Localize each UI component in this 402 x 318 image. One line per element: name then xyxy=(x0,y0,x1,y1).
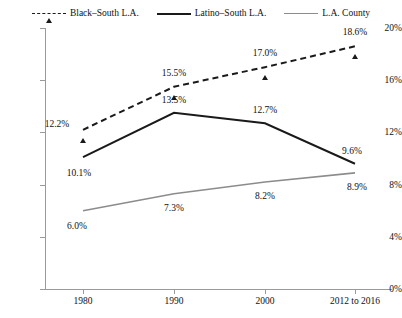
chart-legend: Black–South L.A. Latino–South L.A. L.A. … xyxy=(0,4,402,22)
x-tick-label: 2000 xyxy=(256,296,275,306)
x-tick-label: 1990 xyxy=(165,296,184,306)
chart-container: Black–South L.A. Latino–South L.A. L.A. … xyxy=(0,0,402,318)
legend-swatch-dashed-triangle xyxy=(32,8,66,18)
legend-label-black-south-la: Black–South L.A. xyxy=(70,8,139,18)
y-tick-label: 0% xyxy=(366,284,402,294)
data-point-value-label: 12.7% xyxy=(253,105,278,115)
x-tick-mark xyxy=(83,289,84,294)
legend-label-latino-south-la: Latino–South L.A. xyxy=(195,8,267,18)
legend-item-black-south-la[interactable]: Black–South L.A. xyxy=(32,8,139,18)
x-axis-line xyxy=(45,289,392,290)
data-point-value-label: 8.2% xyxy=(255,191,275,201)
x-tick-mark xyxy=(355,289,356,294)
legend-swatch-solid-circle xyxy=(157,8,191,18)
legend-item-latino-south-la[interactable]: Latino–South L.A. xyxy=(157,8,267,18)
series-lines xyxy=(0,0,402,318)
data-point-value-label: 7.3% xyxy=(164,203,184,213)
triangle-marker-icon xyxy=(262,58,268,76)
y-tick-mark xyxy=(40,80,45,81)
y-tick-label: 12% xyxy=(366,127,402,137)
series-line xyxy=(83,173,355,211)
y-axis-line xyxy=(45,28,46,289)
data-point-value-label: 8.9% xyxy=(347,182,367,192)
series-line xyxy=(83,46,355,130)
triangle-marker-icon xyxy=(46,8,52,18)
triangle-marker-icon xyxy=(80,121,86,139)
data-point-value-label: 6.0% xyxy=(67,221,87,231)
data-point-value-label: 9.6% xyxy=(342,146,362,156)
y-tick-label: 20% xyxy=(366,23,402,33)
y-tick-label: 4% xyxy=(366,232,402,242)
legend-label-la-county: L.A. County xyxy=(322,8,370,18)
y-tick-mark xyxy=(40,185,45,186)
x-tick-label: 2012 to 2016 xyxy=(330,296,380,306)
data-point-value-label: 13.5% xyxy=(162,95,187,105)
y-tick-mark xyxy=(40,237,45,238)
triangle-marker-icon xyxy=(352,37,358,55)
data-point-value-label: 12.2% xyxy=(45,119,70,129)
data-point-value-label: 17.0% xyxy=(253,48,278,58)
x-tick-mark xyxy=(265,289,266,294)
triangle-marker-icon xyxy=(171,78,177,96)
x-tick-mark xyxy=(174,289,175,294)
legend-item-la-county[interactable]: L.A. County xyxy=(284,8,370,18)
y-tick-mark xyxy=(40,28,45,29)
y-tick-mark xyxy=(40,289,45,290)
series-line xyxy=(83,113,355,164)
data-point-value-label: 10.1% xyxy=(67,168,92,178)
x-tick-label: 1980 xyxy=(74,296,93,306)
data-point-value-label: 15.5% xyxy=(162,68,187,78)
y-tick-label: 8% xyxy=(366,180,402,190)
data-point-value-label: 18.6% xyxy=(343,27,368,37)
y-tick-mark xyxy=(40,132,45,133)
y-tick-label: 16% xyxy=(366,75,402,85)
legend-swatch-solid-square xyxy=(284,8,318,18)
